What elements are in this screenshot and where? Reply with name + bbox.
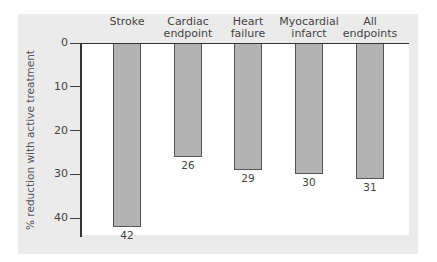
y-tick-label: 0 xyxy=(28,37,68,49)
y-tick xyxy=(70,174,80,175)
bar xyxy=(113,44,141,227)
y-tick-label: 10 xyxy=(28,81,68,93)
y-tick xyxy=(70,86,80,87)
y-tick-label: 40 xyxy=(28,212,68,224)
category-label: Heartfailure xyxy=(216,16,280,40)
bar-value-label: 29 xyxy=(228,172,268,184)
y-tick-label: 20 xyxy=(28,125,68,137)
category-label: Myocardialinfarct xyxy=(277,16,341,40)
category-label: Stroke xyxy=(95,16,159,28)
category-label: Cardiacendpoint xyxy=(156,16,220,40)
y-tick xyxy=(70,218,80,219)
y-axis-label: % reduction with active treatment xyxy=(24,50,36,230)
y-tick xyxy=(70,43,80,44)
bar xyxy=(356,44,384,179)
y-axis-line xyxy=(80,43,82,237)
bar-value-label: 30 xyxy=(289,176,329,188)
bar xyxy=(295,44,323,174)
bar xyxy=(174,44,202,157)
y-tick-label: 30 xyxy=(28,168,68,180)
bar-value-label: 26 xyxy=(168,159,208,171)
bar-value-label: 42 xyxy=(107,229,147,241)
y-tick xyxy=(70,130,80,131)
bar-value-label: 31 xyxy=(350,181,390,193)
bar xyxy=(234,44,262,170)
category-label: Allendpoints xyxy=(338,16,402,40)
